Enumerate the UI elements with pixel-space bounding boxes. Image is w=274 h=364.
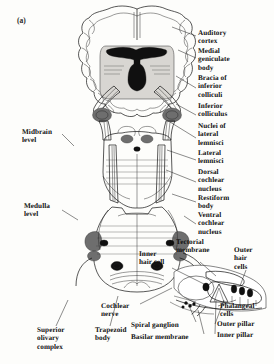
label-superior-olivary-complex: Superior olivary complex (37, 326, 65, 351)
label-ventral-cochlear-nucleus: Ventral cochlear nucleus (198, 211, 224, 236)
label-inner-pillar: Inner pillar (217, 331, 253, 339)
label-spiral-ganglion: Spiral ganglion (131, 321, 179, 329)
auditory-pathway-figure: (a) Midbrain level Medulla level Auditor… (0, 0, 274, 364)
midbrain-section (103, 126, 172, 208)
leader-nuclei-lateral-lemnisci (170, 122, 196, 138)
label-midbrain-level: Midbrain level (22, 128, 52, 145)
label-auditory-cortex: Auditory cortex (198, 29, 226, 46)
label-basilar-membrane: Basilar membrane (131, 333, 189, 341)
label-inferior-colliculus: Inferior colliculus (198, 102, 227, 119)
leader-superior-olivary (56, 300, 68, 326)
leader-basilar-membrane (198, 310, 204, 334)
label-phalangeal-cells: Phalangeal cells (220, 302, 254, 319)
leader-restiform-body (172, 194, 196, 202)
label-trapezoid-body: Trapezoid body (95, 326, 126, 343)
label-cochlear-nerve: Cochlear nerve (101, 302, 129, 319)
leader-spiral-ganglion (190, 308, 196, 322)
label-nuclei-of-lateral-lemnisci: Nuclei of lateral lemnisci (198, 122, 226, 147)
panel-label: (a) (17, 16, 26, 25)
label-lateral-lemnisci: Lateral lemnisci (198, 149, 224, 166)
medulla-section (85, 207, 189, 292)
label-medulla-level: Medulla level (24, 202, 50, 219)
leader-midbrain-level (62, 134, 74, 146)
medial-geniculate-bodies (93, 108, 182, 122)
leader-cochlear-nerve (140, 288, 172, 304)
label-tectorial-membrane: Tectorial membrane (176, 238, 210, 255)
leader-ventral-cochlear-nucleus (184, 216, 196, 224)
label-outer-hair-cells: Outer hair cells (234, 246, 253, 271)
cerebrum-coronal-section (79, 6, 196, 117)
label-medial-geniculate-body: Medial geniculate body (198, 47, 230, 72)
label-restiform-body: Restiform body (198, 194, 229, 211)
leader-dorsal-cochlear-nucleus (166, 170, 196, 182)
ascending-auditory-fibers (98, 210, 177, 250)
brachia-of-inferior-colliculi (99, 121, 175, 140)
label-dorsal-cochlear-nucleus: Dorsal cochlear nucleus (198, 168, 224, 193)
label-inner-hair-cell: Inner hair cell (139, 250, 164, 267)
label-bracia-of-inferior-colliculi: Bracia of inferior colliculi (198, 74, 227, 99)
label-outer-pillar: Outer pillar (217, 320, 254, 328)
leader-medulla-level (62, 210, 78, 220)
